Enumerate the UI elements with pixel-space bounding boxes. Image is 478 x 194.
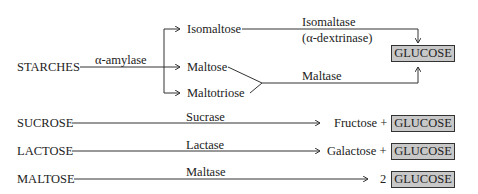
sucrase-label: Sucrase xyxy=(186,110,225,124)
maltotriose-label: Maltotriose xyxy=(187,86,245,100)
starches-label: STARCHES xyxy=(17,60,80,74)
alpha-dextrinase-label: (α-dextrinase) xyxy=(302,31,372,45)
maltase-label: Maltase xyxy=(186,165,226,179)
fructose-label: Fructose + xyxy=(334,116,387,130)
isomaltase-label: Isomaltase xyxy=(302,15,355,29)
isomaltose-label: Isomaltose xyxy=(187,22,241,36)
glucose-box-lactose: GLUCOSE xyxy=(391,143,455,160)
maltose-substrate-label: MALTOSE xyxy=(17,172,75,186)
lactase-label: Lactase xyxy=(186,138,224,152)
glucose-box-maltose: GLUCOSE xyxy=(391,171,455,188)
lactose-label: LACTOSE xyxy=(17,144,73,158)
alpha-amylase-label: α-amylase xyxy=(95,53,147,67)
sucrose-label: SUCROSE xyxy=(17,116,73,130)
glucose-box-starch: GLUCOSE xyxy=(391,45,455,62)
maltase-label-starch: Maltase xyxy=(302,69,342,83)
two-label: 2 xyxy=(380,172,386,186)
glucose-box-sucrose: GLUCOSE xyxy=(391,115,455,132)
maltose-label: Maltose xyxy=(187,60,227,74)
galactose-label: Galactose + xyxy=(327,144,386,158)
